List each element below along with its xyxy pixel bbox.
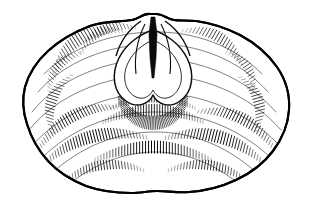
illustration-figure: Fossil bivalve shell, exterior of left v… [0, 0, 311, 211]
shell-illustration-canvas [0, 0, 311, 211]
